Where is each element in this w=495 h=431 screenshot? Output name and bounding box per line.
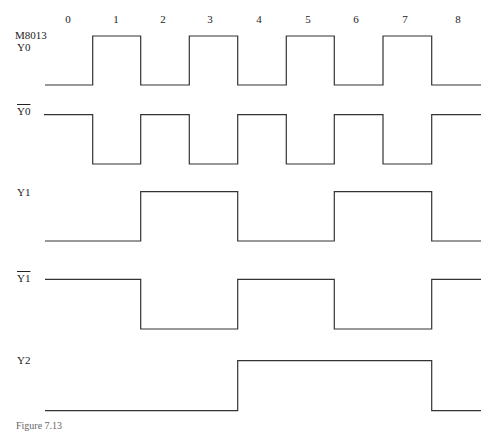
waveform-y0-bar (44, 115, 481, 164)
waveform-y1 (45, 192, 481, 241)
waveform-y1-bar (45, 279, 481, 329)
waveform-y0 (45, 36, 481, 85)
figure-caption: Figure 7.13 (16, 420, 62, 431)
waveform-y2 (45, 361, 481, 411)
